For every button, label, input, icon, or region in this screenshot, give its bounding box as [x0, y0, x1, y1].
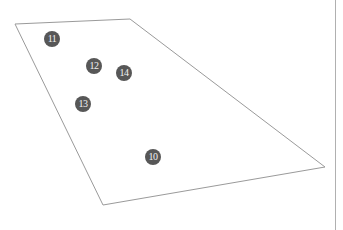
vertical-divider-line	[335, 0, 336, 230]
marker-circle-14: 14	[116, 65, 132, 81]
marker-circle-12: 12	[86, 58, 102, 74]
marker-circle-10: 10	[145, 149, 161, 165]
quadrilateral-outline	[15, 19, 325, 205]
marker-circle-13: 13	[75, 96, 91, 112]
marker-circle-11: 11	[44, 31, 60, 47]
